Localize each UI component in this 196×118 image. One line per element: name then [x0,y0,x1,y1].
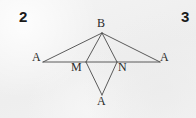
vertex-label-b: B [97,17,105,29]
segment-b-to-a-left [43,33,102,62]
segment-b-to-a-right [102,33,160,62]
vertex-label-n: N [118,61,127,73]
segment-n-to-a-bottom [102,62,117,95]
vertex-label-a-right: A [160,51,169,63]
scanned-page: 2 3 B A A M N A [0,0,196,118]
vertex-label-m: M [71,61,82,73]
vertex-label-a-left: A [32,51,41,63]
segment-b-to-n [102,33,117,62]
segment-m-to-a-bottom [86,62,102,95]
vertex-label-a-bottom: A [97,95,106,107]
